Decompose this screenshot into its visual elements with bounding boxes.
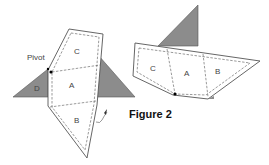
label-a-right: A [184,69,190,78]
label-b-right: B [215,67,220,76]
shaded-triangle-d [13,69,48,97]
label-c-right: C [150,64,156,73]
shaded-triangle-right [97,56,135,97]
rotation-arrowhead-icon [104,109,107,115]
shaded-triangle-top [158,5,198,46]
right-figure: C A B [133,5,260,99]
label-a-left: A [69,81,75,90]
pivot-label: Pivot [27,53,46,62]
figure-2-diagram: Pivot C A B D C A B Figure 2 [0,0,269,165]
label-c-left: C [74,47,80,56]
figure-caption: Figure 2 [129,108,172,120]
label-d-left: D [34,84,40,93]
left-figure: Pivot C A B D [13,29,135,158]
pivot-dot [49,70,52,73]
pivot-dot-right [173,92,176,95]
label-b-left: B [74,116,79,125]
pivot-dot-outer [47,68,49,70]
diagram-canvas: Pivot C A B D C A B Figure 2 [0,0,269,165]
